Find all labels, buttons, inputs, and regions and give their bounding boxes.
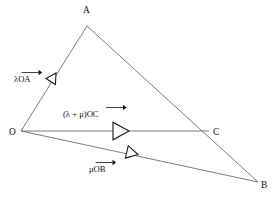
vertex-labels-group: O A B C [9, 5, 267, 190]
overbar-tip-OC [123, 105, 127, 110]
vertex-label-B: B [261, 180, 267, 190]
vector-label-lambda-OA: λOA [14, 70, 42, 84]
arrowhead-mu-OB [125, 146, 139, 161]
vertex-label-O: O [9, 127, 16, 137]
vertex-label-A: A [83, 5, 90, 15]
edges-group [21, 26, 258, 182]
vector-label-lambda-OA-text: λOA [14, 74, 31, 84]
vector-label-mu-OB-text: μOB [89, 164, 106, 174]
vector-diagram: O A B C λOA (λ + μ)OC μOB [0, 0, 276, 201]
vector-label-lambda-plus-mu-OC-text: (λ + μ)OC [63, 109, 99, 119]
overbar-tip-OA [39, 70, 43, 75]
diagram-canvas: O A B C λOA (λ + μ)OC μOB [0, 0, 276, 201]
vertex-label-C: C [213, 127, 219, 137]
vector-label-mu-OB: μOB [89, 160, 116, 174]
arrowhead-lambda-plus-mu-OC [113, 122, 129, 140]
edge-AB [87, 26, 258, 182]
edge-OB [21, 131, 258, 182]
vector-label-lambda-plus-mu-OC: (λ + μ)OC [63, 105, 127, 119]
overbar-tip-OB [113, 160, 117, 165]
arrowhead-lambda-OA [46, 70, 61, 84]
